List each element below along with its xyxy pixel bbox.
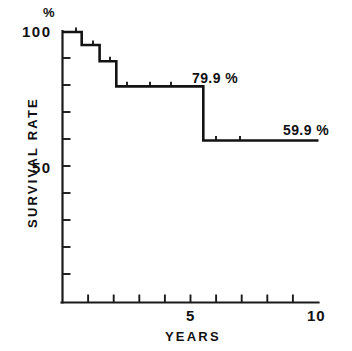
survival-curve-plot	[0, 0, 352, 351]
axis-lines	[62, 31, 319, 303]
x-axis-ticks	[88, 295, 293, 303]
y-axis-tick-label-100: 100	[22, 24, 52, 39]
y-axis-ticks	[63, 58, 71, 274]
x-axis-title: YEARS	[165, 330, 221, 343]
y-axis-unit-symbol: %	[43, 6, 55, 19]
chart-figure: % 100 50 SURVIVAL RATE 5 10 YEARS 79.9 %…	[0, 0, 352, 351]
x-axis-tick-label-5: 5	[186, 308, 194, 323]
annotation-lower-plateau: 59.9 %	[283, 123, 329, 137]
survival-step-curve	[63, 32, 319, 141]
x-axis-tick-label-10: 10	[307, 308, 326, 323]
annotation-upper-plateau: 79.9 %	[192, 71, 238, 85]
y-axis-title: SURVIVAL RATE	[26, 93, 39, 233]
